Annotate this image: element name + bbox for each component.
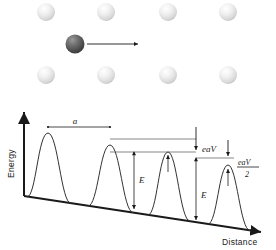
barrier-curve: [27, 133, 71, 204]
half-drop-numerator-label: eaV: [238, 158, 252, 167]
x-axis-baseline: [24, 196, 261, 232]
lattice-atom: [159, 66, 177, 84]
potential-barrier-figure: Energy Distance a E E eaV eaV 2: [0, 0, 276, 250]
lattice-row-bottom: [37, 66, 237, 84]
lattice-atom: [97, 3, 115, 21]
lattice-atom: [97, 66, 115, 84]
barrier-curve: [148, 152, 190, 221]
mobile-ion-atom: [66, 35, 85, 54]
figure-canvas: Energy Distance a E E eaV eaV 2: [0, 0, 276, 250]
lattice-row-top: [37, 3, 237, 21]
barrier-curve: [208, 165, 250, 231]
barrier-energy-label-right: E: [200, 190, 207, 200]
lattice-atom: [37, 3, 55, 21]
lattice-diagram: [37, 3, 237, 84]
x-axis-label: Distance: [222, 237, 257, 247]
full-drop-label: eaV: [202, 144, 217, 154]
energy-diagram: Energy Distance a E E eaV eaV 2: [6, 112, 261, 247]
lattice-atom: [159, 3, 177, 21]
lattice-atom: [219, 3, 237, 21]
lattice-atom: [219, 66, 237, 84]
barrier-energy-label-left: E: [138, 175, 145, 185]
barrier-curve: [88, 145, 133, 213]
half-drop-denominator-label: 2: [245, 170, 249, 179]
y-axis-label: Energy: [6, 149, 16, 178]
period-label: a: [73, 116, 78, 126]
lattice-atom: [37, 66, 55, 84]
